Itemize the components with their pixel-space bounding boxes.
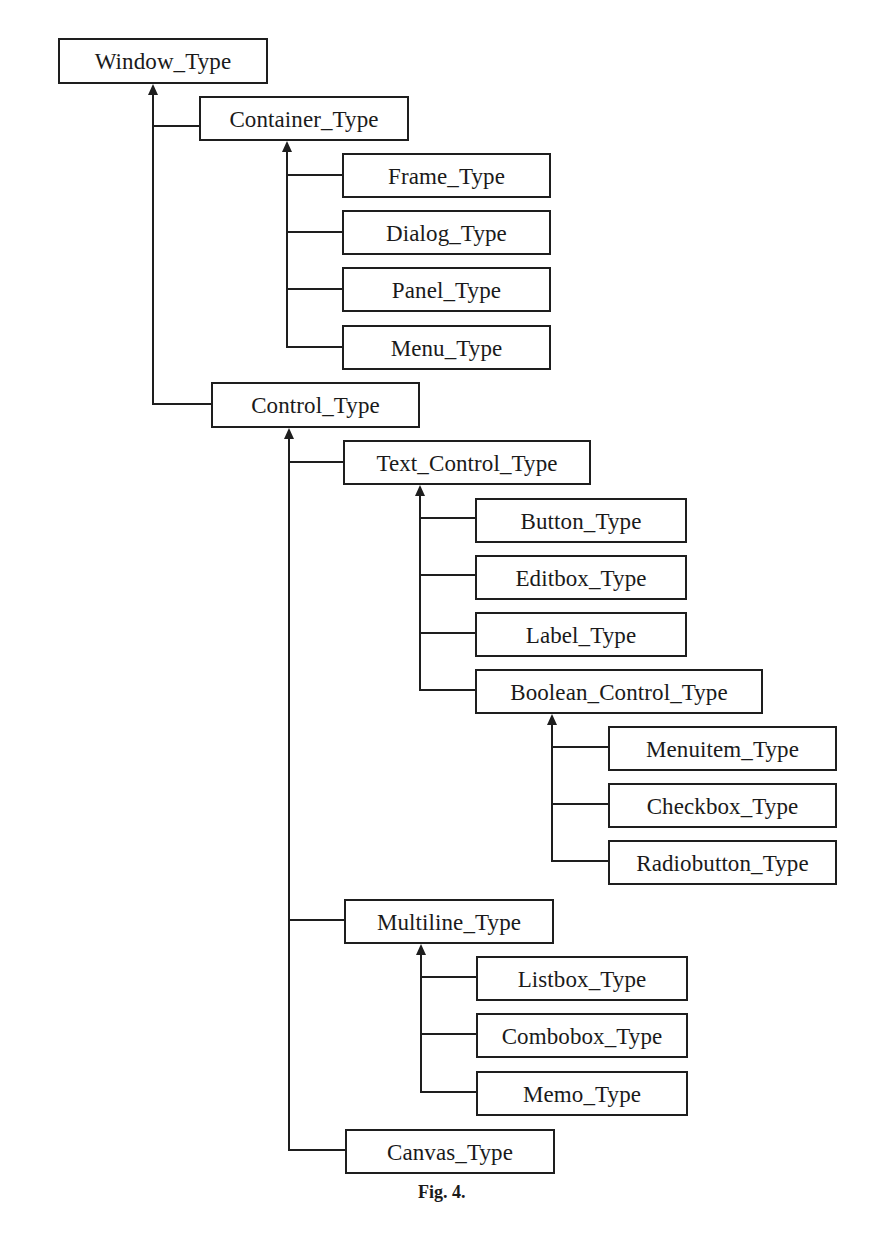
node-label: Boolean_Control_Type — [510, 680, 728, 704]
node-multiline-type: Multiline_Type — [344, 899, 554, 944]
node-panel-type: Panel_Type — [342, 267, 551, 312]
node-text-control-type: Text_Control_Type — [343, 440, 591, 485]
node-label: Container_Type — [229, 107, 378, 131]
node-label: Listbox_Type — [518, 967, 647, 991]
node-label: Panel_Type — [392, 278, 501, 302]
class-hierarchy-diagram: Window_Type Container_Type Frame_Type Di… — [0, 0, 874, 1236]
node-label: Memo_Type — [523, 1082, 641, 1106]
node-combobox-type: Combobox_Type — [476, 1013, 688, 1058]
node-menu-type: Menu_Type — [342, 325, 551, 370]
node-label-type: Label_Type — [475, 612, 687, 657]
node-button-type: Button_Type — [475, 498, 687, 543]
node-label: Menuitem_Type — [646, 737, 799, 761]
node-label: Window_Type — [95, 49, 232, 73]
node-label: Checkbox_Type — [647, 794, 799, 818]
node-menuitem-type: Menuitem_Type — [608, 726, 837, 771]
figure-caption: Fig. 4. — [418, 1182, 466, 1203]
node-label: Button_Type — [521, 509, 642, 533]
node-checkbox-type: Checkbox_Type — [608, 783, 837, 828]
node-memo-type: Memo_Type — [476, 1071, 688, 1116]
node-label: Frame_Type — [388, 164, 505, 188]
node-label: Radiobutton_Type — [636, 851, 808, 875]
node-label: Label_Type — [526, 623, 637, 647]
node-frame-type: Frame_Type — [342, 153, 551, 198]
node-label: Menu_Type — [391, 336, 503, 360]
node-label: Canvas_Type — [387, 1140, 513, 1164]
node-container-type: Container_Type — [199, 96, 409, 141]
node-editbox-type: Editbox_Type — [475, 555, 687, 600]
node-radiobutton-type: Radiobutton_Type — [608, 840, 837, 885]
node-label: Text_Control_Type — [376, 451, 557, 475]
node-canvas-type: Canvas_Type — [345, 1129, 555, 1174]
node-dialog-type: Dialog_Type — [342, 210, 551, 255]
node-label: Combobox_Type — [502, 1024, 663, 1048]
node-boolean-control-type: Boolean_Control_Type — [475, 669, 763, 714]
node-listbox-type: Listbox_Type — [476, 956, 688, 1001]
node-label: Multiline_Type — [377, 910, 521, 934]
node-label: Dialog_Type — [386, 221, 507, 245]
node-label: Editbox_Type — [515, 566, 646, 590]
node-control-type: Control_Type — [211, 382, 420, 428]
node-window-type: Window_Type — [58, 38, 268, 84]
node-label: Control_Type — [251, 393, 380, 417]
